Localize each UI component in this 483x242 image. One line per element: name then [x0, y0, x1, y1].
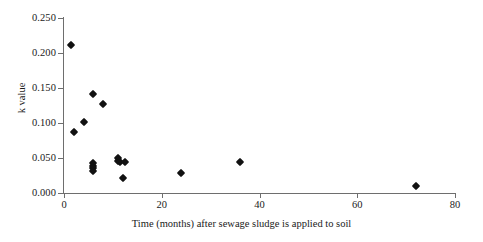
- y-axis-title-wrapper: k value: [14, 0, 30, 242]
- x-axis-tick-label: 0: [44, 200, 84, 211]
- data-point-marker: [118, 173, 126, 181]
- data-point-marker: [70, 128, 78, 136]
- data-point-marker: [412, 182, 420, 190]
- scatter-chart-figure: 0.0000.0500.1000.1500.2000.250 020406080…: [0, 0, 483, 242]
- plot-area: [64, 18, 455, 193]
- x-axis-tick: [357, 193, 358, 198]
- x-axis-tick: [455, 193, 456, 198]
- data-point-marker: [177, 169, 185, 177]
- data-point-marker: [67, 40, 75, 48]
- data-point-marker: [89, 90, 97, 98]
- x-axis-tick-label: 20: [142, 200, 182, 211]
- x-axis-tick-label: 80: [435, 200, 475, 211]
- data-point-marker: [121, 157, 129, 165]
- x-axis-tick: [162, 193, 163, 198]
- y-axis-title: k value: [16, 68, 28, 128]
- x-axis-tick: [260, 193, 261, 198]
- data-point-marker: [79, 117, 87, 125]
- data-point-marker: [236, 158, 244, 166]
- x-axis-tick-label: 40: [240, 200, 280, 211]
- x-axis-tick: [64, 193, 65, 198]
- x-axis-tick-label: 60: [337, 200, 377, 211]
- data-point-marker: [99, 100, 107, 108]
- x-axis-title: Time (months) after sewage sludge is app…: [0, 218, 483, 230]
